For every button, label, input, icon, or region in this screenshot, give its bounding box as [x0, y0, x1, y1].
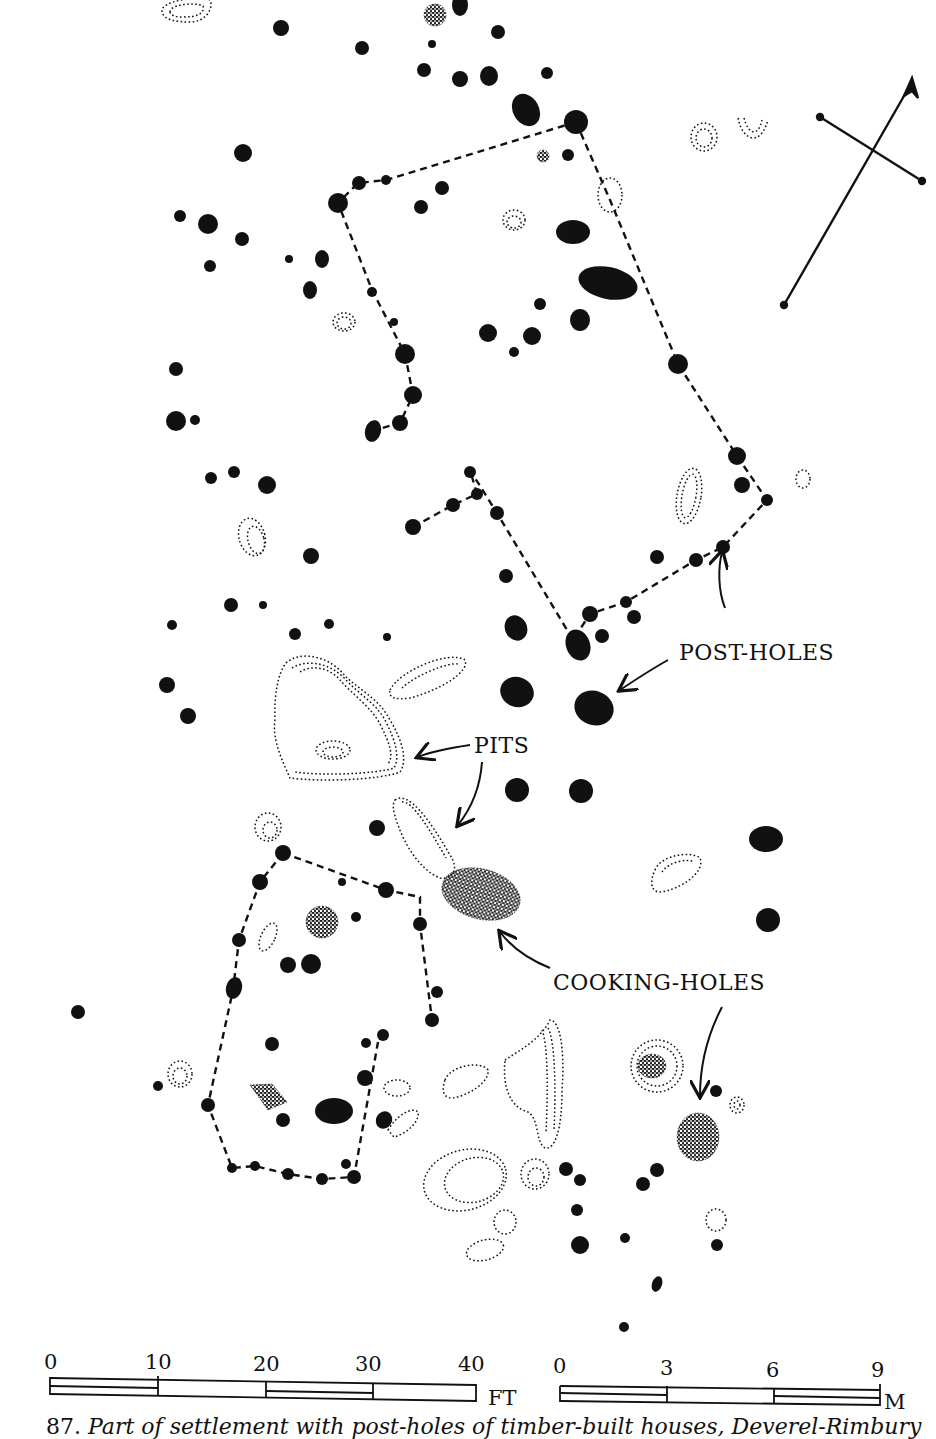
- scale-metres-tick-0: 0: [553, 1354, 566, 1378]
- figure-number: 87.: [46, 1414, 81, 1439]
- site-plan: [0, 0, 936, 1439]
- scale-feet-tick-40: 40: [458, 1352, 485, 1376]
- scale-feet-tick-10: 10: [145, 1350, 172, 1374]
- scale-bar-metres: [560, 1384, 880, 1406]
- house-outline-middle: [413, 470, 573, 640]
- pits: [162, 0, 810, 1265]
- scale-metres-tick-9: 9: [871, 1358, 884, 1382]
- figure-caption-text: Part of settlement with post-holes of ti…: [88, 1414, 921, 1439]
- figure-caption: 87. Part of settlement with post-holes o…: [46, 1414, 921, 1439]
- scale-feet-tick-0: 0: [44, 1350, 57, 1374]
- north-arrow-icon: [781, 78, 925, 308]
- post-holes: [71, 0, 783, 1332]
- scale-feet-tick-30: 30: [355, 1352, 382, 1376]
- scale-metres-tick-3: 3: [660, 1356, 673, 1380]
- scale-feet-tick-20: 20: [253, 1352, 280, 1376]
- house-outline-lower-north: [283, 853, 432, 1020]
- label-cooking-holes: COOKING-HOLES: [553, 970, 765, 995]
- house-outline-upper: [338, 122, 576, 430]
- scale-metres-tick-6: 6: [766, 1358, 779, 1382]
- house-outline-upper-east: [573, 122, 767, 640]
- house-outline-lower: [208, 853, 378, 1179]
- label-post-holes: POST-HOLES: [679, 640, 834, 665]
- label-pits: PITS: [474, 733, 529, 758]
- scale-bar-feet: [50, 1376, 476, 1402]
- scale-feet-unit: FT: [488, 1386, 517, 1410]
- scale-metres-unit: M: [884, 1390, 906, 1414]
